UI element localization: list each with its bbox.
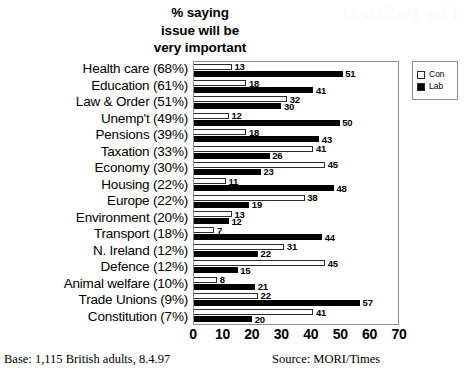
- x-axis-tick-label: 20: [244, 326, 259, 342]
- bar-lab[interactable]: [194, 185, 334, 191]
- footer-source-note: Source: MORI/Times: [272, 352, 380, 367]
- bar-group-con: 41: [194, 146, 398, 152]
- bar-lab[interactable]: [194, 136, 319, 142]
- bar-value-label: 22: [261, 249, 271, 258]
- bar-lab[interactable]: [194, 234, 322, 240]
- category-label: Health care (68%): [0, 61, 191, 78]
- bar-lab[interactable]: [194, 316, 252, 322]
- legend-item-con[interactable]: Con: [417, 70, 457, 79]
- bar-con[interactable]: [194, 80, 246, 86]
- bar-group-con: 41: [194, 309, 398, 315]
- title-line-2: issue will be: [110, 22, 290, 40]
- category-label: Taxation (33%): [0, 144, 191, 161]
- bar-con[interactable]: [194, 277, 217, 283]
- x-axis-tick-label: 10: [215, 326, 230, 342]
- bar-group-con: 8: [194, 277, 398, 283]
- bar-value-label: 20: [255, 315, 265, 324]
- bar-lab[interactable]: [194, 169, 261, 175]
- bar-group-con: 31: [194, 244, 398, 250]
- bar-lab[interactable]: [194, 87, 313, 93]
- bar-lab[interactable]: [194, 202, 249, 208]
- bar-lab[interactable]: [194, 267, 238, 273]
- bar-value-label: 30: [284, 102, 294, 111]
- bar-group-lab: 23: [194, 169, 398, 175]
- bar-row: 3230: [194, 95, 398, 111]
- title-line-1: % saying: [110, 4, 290, 22]
- bar-lab[interactable]: [194, 251, 258, 257]
- bar-con[interactable]: [194, 211, 232, 217]
- bar-group-con: 18: [194, 129, 398, 135]
- bar-con[interactable]: [194, 146, 313, 152]
- x-axis-tick-label: 40: [303, 326, 318, 342]
- bar-value-label: 41: [316, 86, 326, 95]
- category-label: Economy (30%): [0, 160, 191, 177]
- bar-group-con: 38: [194, 195, 398, 201]
- bar-row: 4523: [194, 160, 398, 176]
- x-axis: 010203040506070: [193, 326, 399, 346]
- bar-group-con: 12: [194, 113, 398, 119]
- bar-group-lab: 12: [194, 218, 398, 224]
- bar-con[interactable]: [194, 195, 305, 201]
- bar-group-con: 11: [194, 178, 398, 184]
- bar-row: 4120: [194, 308, 398, 324]
- bar-lab[interactable]: [194, 71, 343, 77]
- bar-row: 1841: [194, 78, 398, 94]
- bars-layer: 1351184132301250184341264523114838191312…: [194, 62, 398, 324]
- bar-group-lab: 43: [194, 136, 398, 142]
- title-line-3: very important: [110, 39, 290, 57]
- bar-lab[interactable]: [194, 153, 270, 159]
- bar-row: 1351: [194, 62, 398, 78]
- bar-con[interactable]: [194, 178, 226, 184]
- chart-title: % saying issue will be very important % …: [110, 4, 290, 57]
- category-axis: Health care (68%)Education (61%)Law & Or…: [0, 61, 191, 325]
- category-label: N. Ireland (12%): [0, 243, 191, 260]
- category-label: Europe (22%): [0, 193, 191, 210]
- bar-group-con: 13: [194, 211, 398, 217]
- bar-lab[interactable]: [194, 300, 360, 306]
- bar-con[interactable]: [194, 129, 246, 135]
- bar-value-label: 48: [336, 184, 346, 193]
- bar-row: 1148: [194, 177, 398, 193]
- legend-item-lab[interactable]: Lab: [417, 82, 457, 91]
- bar-con[interactable]: [194, 113, 229, 119]
- bar-lab[interactable]: [194, 103, 281, 109]
- bar-group-lab: 44: [194, 234, 398, 240]
- category-label: Housing (22%): [0, 177, 191, 194]
- bar-group-con: 45: [194, 260, 398, 266]
- bar-con[interactable]: [194, 260, 325, 266]
- bar-group-lab: 19: [194, 202, 398, 208]
- bar-group-con: 18: [194, 80, 398, 86]
- footer-base-note: Base: 1,115 British adults, 8.4.97: [4, 352, 170, 367]
- bar-group-lab: 20: [194, 316, 398, 322]
- bar-con[interactable]: [194, 96, 287, 102]
- bar-row: 1312: [194, 209, 398, 225]
- bar-con[interactable]: [194, 309, 313, 315]
- bar-group-con: 45: [194, 162, 398, 168]
- bar-con[interactable]: [194, 227, 214, 233]
- category-label: Defence (12%): [0, 259, 191, 276]
- category-label: Pensions (39%): [0, 127, 191, 144]
- bar-group-lab: 48: [194, 185, 398, 191]
- bar-value-label: 23: [264, 167, 274, 176]
- bar-lab[interactable]: [194, 284, 255, 290]
- white-square-icon: [417, 71, 425, 79]
- bar-group-lab: 41: [194, 87, 398, 93]
- bar-group-lab: 22: [194, 251, 398, 257]
- bar-value-label: 15: [240, 266, 250, 275]
- bar-lab[interactable]: [194, 218, 229, 224]
- x-axis-tick-label: 50: [333, 326, 348, 342]
- bar-group-con: 7: [194, 227, 398, 233]
- bar-con[interactable]: [194, 64, 232, 70]
- bar-con[interactable]: [194, 293, 258, 299]
- bar-row: 2257: [194, 291, 398, 307]
- bar-lab[interactable]: [194, 120, 340, 126]
- bar-group-lab: 15: [194, 267, 398, 273]
- legend-label: Con: [429, 70, 445, 79]
- bar-group-lab: 57: [194, 300, 398, 306]
- category-label: Trade Unions (9%): [0, 292, 191, 309]
- bar-con[interactable]: [194, 162, 325, 168]
- bar-row: 744: [194, 226, 398, 242]
- bar-row: 3819: [194, 193, 398, 209]
- legend-label: Lab: [429, 82, 443, 91]
- bar-row: 4515: [194, 259, 398, 275]
